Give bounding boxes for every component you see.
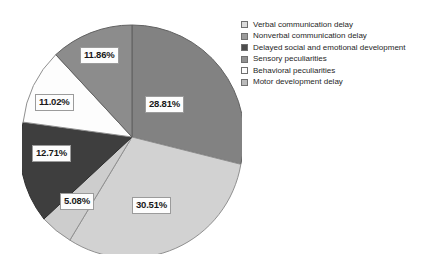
legend-swatch-icon bbox=[241, 21, 248, 28]
chart-legend: Verbal communication delay Nonverbal com… bbox=[241, 19, 427, 88]
legend-item-verbal-communication-delay[interactable]: Verbal communication delay bbox=[241, 19, 427, 30]
legend-label: Motor development delay bbox=[253, 78, 343, 86]
legend-label: Nonverbal communication delay bbox=[253, 32, 367, 40]
slice-label-verbal-communication-delay: 28.81% bbox=[145, 96, 184, 113]
legend-swatch-icon bbox=[241, 67, 248, 74]
slice-label-motor-development-delay: 11.86% bbox=[80, 47, 119, 64]
legend-item-delayed-social-and-emotional-development[interactable]: Delayed social and emotional development bbox=[241, 42, 427, 53]
pie-chart-plot-area: 28.81% 30.51% 5.08% 12.71% 11.02% 11.86% bbox=[22, 12, 242, 254]
pie-chart-figure: 28.81% 30.51% 5.08% 12.71% 11.02% 11.86%… bbox=[0, 0, 429, 266]
legend-label: Verbal communication delay bbox=[253, 21, 353, 29]
slice-label-sensory-peculiarities: 12.71% bbox=[32, 145, 71, 162]
slice-label-nonverbal-communication-delay: 30.51% bbox=[132, 197, 171, 214]
legend-label: Behavioral peculiarities bbox=[253, 67, 335, 75]
legend-item-behavioral-peculiarities[interactable]: Behavioral peculiarities bbox=[241, 65, 427, 76]
legend-label: Delayed social and emotional development bbox=[253, 44, 406, 52]
legend-item-sensory-peculiarities[interactable]: Sensory peculiarities bbox=[241, 54, 427, 65]
slice-label-behavioral-peculiarities: 11.02% bbox=[35, 94, 74, 111]
slice-label-delayed-social-and-emotional-development: 5.08% bbox=[60, 193, 94, 210]
pie-chart-svg bbox=[22, 12, 242, 254]
legend-swatch-icon bbox=[241, 44, 248, 51]
legend-item-motor-development-delay[interactable]: Motor development delay bbox=[241, 77, 427, 88]
legend-swatch-icon bbox=[241, 33, 248, 40]
legend-swatch-icon bbox=[241, 56, 248, 63]
legend-label: Sensory peculiarities bbox=[253, 55, 327, 63]
legend-swatch-icon bbox=[241, 79, 248, 86]
legend-item-nonverbal-communication-delay[interactable]: Nonverbal communication delay bbox=[241, 31, 427, 42]
